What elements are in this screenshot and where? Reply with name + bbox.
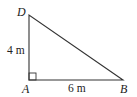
vertex-label-B: B — [120, 82, 128, 96]
triangle-DAB — [29, 15, 123, 80]
triangle-diagram: D A B 4 m 6 m — [0, 0, 137, 97]
right-angle-marker — [29, 73, 36, 80]
vertex-label-A: A — [21, 82, 30, 96]
vertex-label-D: D — [16, 5, 26, 19]
side-label-AB: 6 m — [68, 82, 86, 94]
side-label-DA: 4 m — [7, 44, 25, 56]
